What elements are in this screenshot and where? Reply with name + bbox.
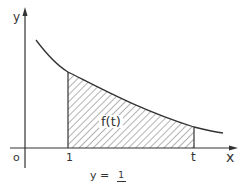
formula-lhs: y xyxy=(90,169,97,182)
upper-bound-label: t xyxy=(191,151,196,163)
area-under-curve-diagram: y o 1 t x f(t) y = 1 xyxy=(0,0,250,186)
origin-label: o xyxy=(13,152,20,163)
diagram-canvas xyxy=(0,0,250,186)
y-axis-label: y xyxy=(13,11,20,23)
region-label: f(t) xyxy=(99,115,123,128)
curve-formula: y = 1 xyxy=(90,170,126,182)
y-axis-arrow-icon xyxy=(23,7,28,16)
formula-fraction: 1 xyxy=(117,171,126,182)
lower-bound-label: 1 xyxy=(66,152,73,163)
shaded-region xyxy=(68,72,194,148)
formula-equals: = xyxy=(100,169,109,182)
x-axis-label: x xyxy=(226,150,234,164)
fraction-bar xyxy=(117,181,126,182)
formula-numerator: 1 xyxy=(117,171,126,180)
